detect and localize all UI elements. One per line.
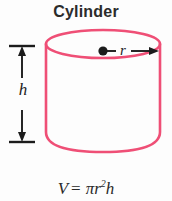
cylinder-body-outline — [46, 44, 160, 152]
radius-center-dot — [98, 46, 107, 55]
formula-height-var: h — [106, 179, 115, 198]
height-arrow-down-head — [18, 132, 26, 142]
volume-formula: V=πr2h — [0, 179, 172, 199]
height-label: h — [14, 80, 32, 100]
height-arrow-up-head — [18, 46, 26, 56]
radius-label: r — [116, 41, 130, 59]
formula-pi: π — [84, 179, 95, 198]
formula-lhs: V — [58, 179, 68, 198]
cylinder-figure: Cylinder h r V=πr2h — [0, 0, 172, 201]
formula-radius-var: r — [94, 179, 101, 198]
cylinder-diagram — [0, 0, 172, 201]
formula-equals: = — [68, 179, 84, 198]
